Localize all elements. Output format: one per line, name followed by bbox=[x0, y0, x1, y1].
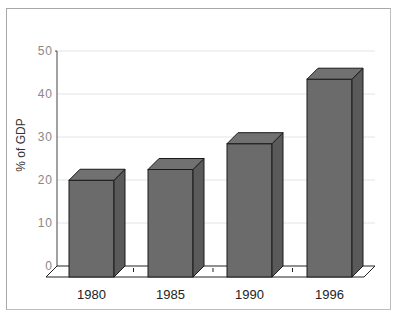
x-tick-label: 1996 bbox=[315, 287, 344, 302]
y-tick-label: 20 bbox=[38, 173, 53, 187]
y-tick-label: 40 bbox=[38, 87, 53, 101]
bar-front bbox=[307, 79, 352, 277]
bar-front bbox=[148, 170, 193, 278]
bar-front bbox=[227, 144, 272, 277]
x-tick-label: 1985 bbox=[156, 287, 185, 302]
y-tick-label: 50 bbox=[38, 44, 53, 58]
y-tick-label: 10 bbox=[38, 216, 53, 230]
x-tick-label: 1980 bbox=[77, 287, 106, 302]
y-axis-label: % of GDP bbox=[14, 118, 28, 171]
bar-side bbox=[352, 68, 363, 277]
bar-front bbox=[69, 180, 114, 277]
bar-side bbox=[193, 159, 204, 278]
bar-chart: 010203040501980198519901996 bbox=[0, 0, 402, 318]
y-tick-label: 30 bbox=[38, 130, 53, 144]
bar-side bbox=[272, 133, 283, 277]
bar-side bbox=[114, 169, 125, 277]
x-tick-label: 1990 bbox=[235, 287, 264, 302]
